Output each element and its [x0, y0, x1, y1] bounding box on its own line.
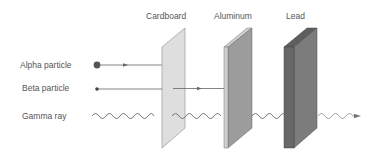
beta-particle-path [95, 87, 224, 91]
arrowhead-icon [354, 114, 361, 118]
radiation-label-alpha: Alpha particle [20, 60, 72, 70]
radiation-penetration-diagram: Cardboard Aluminum Lead Alpha particle B… [0, 0, 381, 161]
lead-barrier [284, 28, 317, 148]
radiation-label-beta: Beta particle [22, 83, 70, 93]
cardboard-barrier [162, 28, 185, 148]
barrier-label-aluminum: Aluminum [214, 11, 252, 21]
arrowhead-icon [197, 87, 202, 90]
alpha-particle-path [94, 62, 162, 69]
radiation-label-gamma: Gamma ray [22, 111, 67, 121]
barrier-label-lead: Lead [286, 11, 305, 21]
aluminum-barrier [224, 28, 252, 148]
arrowhead-icon [123, 63, 128, 66]
barrier-label-cardboard: Cardboard [146, 11, 186, 21]
